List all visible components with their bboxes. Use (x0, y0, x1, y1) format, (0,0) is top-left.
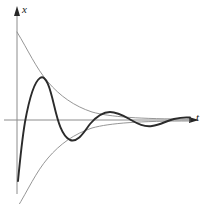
damped-oscillation-curve (18, 77, 190, 181)
horizontal-axis-label: t (196, 112, 199, 123)
lower-envelope-curve (17, 121, 190, 204)
up-arrow-icon (14, 6, 20, 16)
upper-envelope-curve (17, 32, 190, 119)
damped-oscillation-figure: x t (0, 0, 207, 204)
plot-canvas (0, 0, 207, 204)
vertical-axis-label: x (22, 4, 27, 15)
